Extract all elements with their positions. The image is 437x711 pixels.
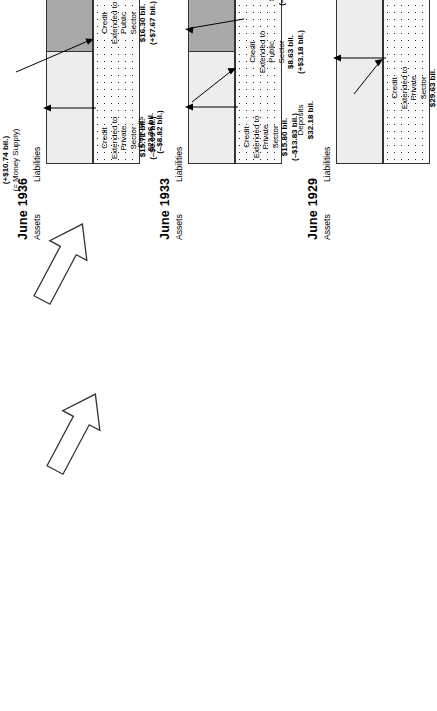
assets-bar-1929 [336,0,383,164]
segment-credit-private-sector-1936 [47,51,92,163]
assets-bar-1936 [46,0,93,164]
label-deposits-1936: Deposits $34.10 bil. (+$10.74 bil.) (= M… [0,129,20,192]
panel-title-1929: June 1929 [306,178,320,240]
label-deposits-1929: Deposits $32.18 bil. [296,101,315,139]
assets-header-1933: Assets [174,214,184,240]
segment-credit-public-sector-1936 [47,0,92,51]
label-other-assets-1933: Other Assets $6.37 bil. (–$1.65 bil.) [248,0,286,6]
panel-june-1929: June 1929 Assets Liabilities Credit Exte… [290,0,437,250]
segment-credit-private-sector-1933 [189,51,234,163]
assets-header-1929: Assets [322,214,332,240]
liabilities-header-1933: Liabilities [174,147,184,182]
liabilities-header-1929: Liabilities [322,147,332,182]
panel-title-1933: June 1933 [158,178,172,240]
assets-bar-1933 [188,0,235,164]
assets-header-1936: Assets [32,214,42,240]
label-deposits-1933: Deposits $23.36 bil. (–$8.82 bil.) [136,110,165,154]
segment-credit-public-sector-1933 [189,0,234,51]
segment-credit-private-sector-1929 [337,0,382,163]
label-credit-private-sector-1929: Credit Extended to Private Sector $29.63… [390,67,437,110]
liabilities-header-1936: Liabilities [32,147,42,182]
